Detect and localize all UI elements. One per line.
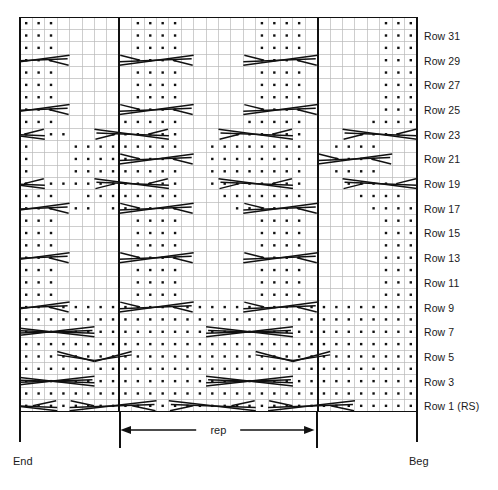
row-label-29: Row 29	[424, 55, 460, 67]
chart-grid-canvas	[20, 17, 417, 412]
row-label-23: Row 23	[424, 129, 460, 141]
row-label-15: Row 15	[424, 227, 460, 239]
row-label-3: Row 3	[424, 376, 454, 388]
knitting-chart: Row 31Row 29Row 27Row 25Row 23Row 21Row …	[0, 0, 498, 490]
end-label: End	[13, 455, 33, 467]
row-label-25: Row 25	[424, 104, 460, 116]
row-label-19: Row 19	[424, 178, 460, 190]
row-label-7: Row 7	[424, 326, 454, 338]
repeat-bracket: rep	[119, 412, 317, 452]
row-label-5: Row 5	[424, 351, 454, 363]
row-label-1: Row 1 (RS)	[424, 400, 479, 412]
beg-label: Beg	[409, 455, 429, 467]
row-label-21: Row 21	[424, 153, 460, 165]
row-label-11: Row 11	[424, 277, 459, 289]
row-label-27: Row 27	[424, 79, 460, 91]
beg-guide-line	[416, 17, 418, 442]
repeat-label: rep	[119, 424, 317, 436]
row-label-17: Row 17	[424, 203, 460, 215]
row-label-13: Row 13	[424, 252, 460, 264]
row-label-9: Row 9	[424, 302, 454, 314]
end-guide-line	[19, 17, 21, 442]
row-label-31: Row 31	[424, 30, 460, 42]
chart-grid[interactable]	[20, 17, 417, 412]
